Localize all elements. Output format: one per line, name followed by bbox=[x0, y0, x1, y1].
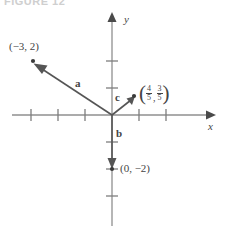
x-axis-label: x bbox=[208, 121, 213, 132]
vector-b-label: b bbox=[116, 128, 122, 139]
paren-close-icon: ) bbox=[163, 83, 170, 104]
figure-container: FIGURE 12 bbox=[0, 0, 227, 234]
point-a-label: (−3, 2) bbox=[9, 41, 39, 52]
point-c-dot bbox=[132, 94, 136, 98]
vector-a-shaft bbox=[42, 69, 112, 115]
vector-plot bbox=[0, 0, 227, 234]
y-axis-label: y bbox=[124, 14, 129, 25]
paren-open-icon: ( bbox=[139, 83, 146, 104]
point-b-dot bbox=[110, 167, 114, 171]
x-axis-arrowhead bbox=[206, 111, 216, 120]
vector-a-arrowhead bbox=[34, 64, 48, 75]
point-b-label: (0, −2) bbox=[120, 163, 150, 174]
point-a-dot bbox=[31, 59, 35, 63]
y-axis-arrowhead bbox=[108, 12, 117, 22]
vector-a-label: a bbox=[75, 78, 81, 89]
point-c-label: ( 4 5 , 3 5 ) bbox=[139, 83, 170, 104]
vector-c-label: c bbox=[115, 92, 120, 103]
